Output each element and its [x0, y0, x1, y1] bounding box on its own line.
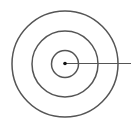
center-point — [63, 62, 67, 66]
concentric-circles-diagram — [0, 0, 132, 124]
